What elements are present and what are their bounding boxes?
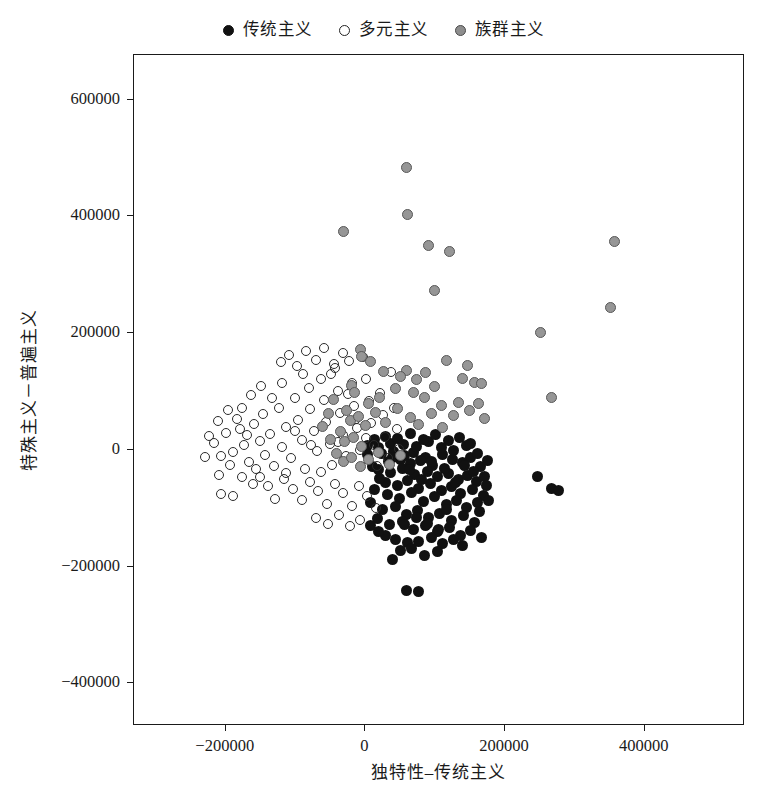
scatter-point-traditionalism <box>467 484 478 495</box>
scatter-point-pluralism <box>311 355 321 365</box>
scatter-point-ethnic_nationalism <box>413 419 424 430</box>
scatter-point-traditionalism <box>387 554 398 565</box>
scatter-point-pluralism <box>313 486 323 496</box>
chart-page: 传统主义 多元主义 族群主义 特殊主义－普遍主义 −400000−2000000… <box>0 0 767 799</box>
scatter-point-pluralism <box>322 499 332 509</box>
scatter-point-traditionalism <box>422 518 433 529</box>
scatter-point-traditionalism <box>419 550 430 561</box>
y-axis-title-text: 特殊主义－普遍主义 <box>15 309 40 471</box>
legend-item-pluralism: 多元主义 <box>339 22 429 39</box>
scatter-point-traditionalism <box>443 435 454 446</box>
scatter-point-ethnic_nationalism <box>384 459 395 470</box>
y-tick-label: 600000 <box>71 89 121 109</box>
scatter-point-pluralism <box>392 424 402 434</box>
scatter-point-ethnic_nationalism <box>605 302 616 313</box>
scatter-point-pluralism <box>338 488 348 498</box>
scatter-point-traditionalism <box>429 491 440 502</box>
scatter-point-pluralism <box>228 447 238 457</box>
legend-label-pluralism: 多元主义 <box>359 22 429 39</box>
scatter-point-pluralism <box>269 461 279 471</box>
scatter-point-pluralism <box>232 414 242 424</box>
scatter-point-ethnic_nationalism <box>426 408 437 419</box>
scatter-point-pluralism <box>323 519 333 529</box>
scatter-point-pluralism <box>223 405 233 415</box>
scatter-point-pluralism <box>362 491 372 501</box>
scatter-point-pluralism <box>305 404 315 414</box>
scatter-point-ethnic_nationalism <box>535 327 546 338</box>
scatter-point-ethnic_nationalism <box>423 240 434 251</box>
scatter-point-pluralism <box>214 470 224 480</box>
scatter-point-traditionalism <box>415 455 426 466</box>
scatter-point-traditionalism <box>454 432 465 443</box>
scatter-point-traditionalism <box>365 520 376 531</box>
scatter-point-traditionalism <box>439 463 450 474</box>
scatter-point-pluralism <box>326 369 336 379</box>
y-axis-title: 特殊主义－普遍主义 <box>14 54 40 725</box>
y-tick <box>127 215 134 216</box>
y-tick-label: 400000 <box>71 205 121 225</box>
scatter-point-traditionalism <box>416 474 427 485</box>
scatter-point-traditionalism <box>483 495 494 506</box>
scatter-point-traditionalism <box>481 480 492 491</box>
scatter-point-pluralism <box>237 403 247 413</box>
scatter-point-pluralism <box>276 357 286 367</box>
scatter-point-pluralism <box>298 369 308 379</box>
scatter-point-pluralism <box>297 495 307 505</box>
scatter-point-ethnic_nationalism <box>392 403 403 414</box>
scatter-point-pluralism <box>274 403 284 413</box>
scatter-point-traditionalism <box>532 471 543 482</box>
scatter-point-ethnic_nationalism <box>479 413 490 424</box>
scatter-point-ethnic_nationalism <box>609 236 620 247</box>
scatter-point-pluralism <box>345 521 355 531</box>
scatter-point-ethnic_nationalism <box>348 432 359 443</box>
scatter-point-pluralism <box>334 510 344 520</box>
scatter-point-pluralism <box>284 350 294 360</box>
scatter-point-traditionalism <box>444 522 455 533</box>
scatter-point-traditionalism <box>402 475 413 486</box>
scatter-point-pluralism <box>237 472 247 482</box>
scatter-point-ethnic_nationalism <box>429 285 440 296</box>
filled-circle-icon <box>223 25 234 36</box>
y-tick-label: −400000 <box>61 672 120 692</box>
scatter-point-pluralism <box>286 453 296 463</box>
scatter-point-pluralism <box>277 378 287 388</box>
scatter-point-pluralism <box>265 429 275 439</box>
scatter-point-ethnic_nationalism <box>441 355 452 366</box>
x-tick-label: 200000 <box>479 736 529 756</box>
scatter-point-traditionalism <box>390 501 401 512</box>
scatter-point-traditionalism <box>465 525 476 536</box>
scatter-point-ethnic_nationalism <box>546 392 557 403</box>
scatter-point-pluralism <box>304 383 314 393</box>
scatter-point-ethnic_nationalism <box>411 374 422 385</box>
scatter-point-traditionalism <box>401 585 412 596</box>
x-tick <box>644 724 645 731</box>
scatter-point-ethnic_nationalism <box>429 381 440 392</box>
scatter-point-pluralism <box>290 393 300 403</box>
scatter-point-ethnic_nationalism <box>373 447 384 458</box>
chart-legend: 传统主义 多元主义 族群主义 <box>0 16 767 44</box>
scatter-point-ethnic_nationalism <box>317 421 328 432</box>
legend-item-traditionalism: 传统主义 <box>223 22 313 39</box>
scatter-point-pluralism <box>258 409 268 419</box>
scatter-point-traditionalism <box>468 466 479 477</box>
y-tick <box>127 332 134 333</box>
scatter-point-traditionalism <box>382 489 393 500</box>
scatter-point-pluralism <box>290 426 300 436</box>
scatter-point-pluralism <box>239 440 249 450</box>
scatter-point-pluralism <box>355 515 365 525</box>
scatter-point-traditionalism <box>406 487 417 498</box>
scatter-point-pluralism <box>288 484 298 494</box>
scatter-point-pluralism <box>330 479 340 489</box>
x-tick-label: 400000 <box>619 736 669 756</box>
scatter-point-pluralism <box>316 467 326 477</box>
y-tick <box>127 449 134 450</box>
legend-label-traditionalism: 传统主义 <box>243 22 313 39</box>
scatter-point-ethnic_nationalism <box>401 162 412 173</box>
scatter-point-pluralism <box>311 513 321 523</box>
scatter-point-traditionalism <box>441 504 452 515</box>
scatter-point-traditionalism <box>395 545 406 556</box>
scatter-point-ethnic_nationalism <box>437 422 448 433</box>
scatter-point-pluralism <box>228 491 238 501</box>
scatter-point-pluralism <box>327 460 337 470</box>
scatter-point-ethnic_nationalism <box>335 426 346 437</box>
